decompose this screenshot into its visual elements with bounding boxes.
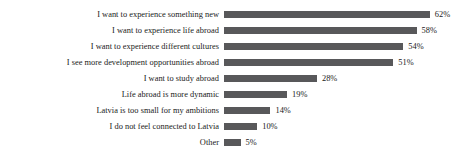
bar-track: 10% xyxy=(224,119,475,135)
bar-track: 54% xyxy=(224,38,475,54)
value-label: 58% xyxy=(422,26,437,35)
table-row: I do not feel connected to Latvia 10% xyxy=(0,119,475,135)
bar-chart: I want to experience something new 62% I… xyxy=(0,0,475,167)
bar-track: 51% xyxy=(224,54,475,70)
bar xyxy=(224,27,417,34)
value-label: 5% xyxy=(246,138,257,147)
plot-area: I want to experience something new 62% I… xyxy=(0,6,475,161)
bar-track: 5% xyxy=(224,135,475,151)
value-label: 14% xyxy=(275,106,290,115)
value-label: 10% xyxy=(262,122,277,131)
table-row: I want to experience something new 62% xyxy=(0,6,475,22)
bar xyxy=(224,11,430,18)
table-row: I want to study abroad 28% xyxy=(0,70,475,86)
value-label: 19% xyxy=(292,90,307,99)
table-row: I want to experience life abroad 58% xyxy=(0,22,475,38)
table-row: I see more development opportunities abr… xyxy=(0,54,475,70)
category-label: I want to study abroad xyxy=(0,74,224,83)
table-row: Other 5% xyxy=(0,135,475,151)
bar-track: 58% xyxy=(224,22,475,38)
bar-track: 14% xyxy=(224,103,475,119)
category-label: I want to experience something new xyxy=(0,10,224,19)
bar-track: 19% xyxy=(224,86,475,102)
bar xyxy=(224,91,287,98)
category-label: Life abroad is more dynamic xyxy=(0,90,224,99)
bar xyxy=(224,123,257,130)
category-label: Latvia is too small for my ambitions xyxy=(0,106,224,115)
value-label: 62% xyxy=(435,10,450,19)
table-row: Life abroad is more dynamic 19% xyxy=(0,86,475,102)
bar xyxy=(224,139,241,146)
bar xyxy=(224,107,270,114)
table-row: I want to experience different cultures … xyxy=(0,38,475,54)
category-label: I want to experience life abroad xyxy=(0,26,224,35)
bar xyxy=(224,75,317,82)
table-row: Latvia is too small for my ambitions 14% xyxy=(0,103,475,119)
bar-track: 28% xyxy=(224,70,475,86)
category-label: I do not feel connected to Latvia xyxy=(0,122,224,131)
category-label: Other xyxy=(0,138,224,147)
bar xyxy=(224,59,393,66)
category-label: I see more development opportunities abr… xyxy=(0,58,224,67)
bar xyxy=(224,43,403,50)
category-label: I want to experience different cultures xyxy=(0,42,224,51)
value-label: 54% xyxy=(408,42,423,51)
value-label: 28% xyxy=(322,74,337,83)
bar-track: 62% xyxy=(224,6,475,22)
value-label: 51% xyxy=(398,58,413,67)
